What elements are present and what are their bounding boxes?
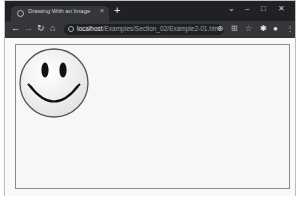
url-text[interactable]: localhost/Examples/Section_02/Example2-0… [77, 25, 222, 32]
new-tab-button[interactable]: + [114, 4, 120, 16]
minimize-button[interactable]: – [245, 4, 249, 13]
back-button[interactable]: ← [11, 23, 20, 33]
browser-window: Drawing With an Image × + ⌄ – □ ✕ ← → ↻ … [4, 0, 296, 196]
address-bar[interactable]: localhost/Examples/Section_02/Example2-0… [64, 24, 224, 35]
toolbar: ← → ↻ ⌂ localhost/Examples/Section_02/Ex… [5, 21, 295, 38]
forward-button[interactable]: → [24, 23, 33, 33]
bookmark-star-icon[interactable]: ☆ [245, 24, 252, 33]
smiley-face-image [18, 47, 91, 120]
extensions-icon[interactable]: ✱ [260, 24, 267, 33]
menu-icon[interactable]: ⋮ [286, 24, 294, 33]
close-tab-icon[interactable]: × [100, 7, 104, 14]
info-icon[interactable] [68, 26, 74, 32]
title-bar: Drawing With an Image × + ⌄ – □ ✕ [5, 1, 295, 21]
maximize-button[interactable]: □ [261, 4, 266, 13]
close-window-button[interactable]: ✕ [278, 4, 285, 13]
install-icon[interactable]: ⊞ [231, 24, 238, 33]
zoom-icon[interactable]: ⊕ [217, 24, 224, 33]
home-button[interactable]: ⌂ [50, 23, 55, 33]
tab-title: Drawing With an Image [28, 8, 90, 14]
url-host: localhost [77, 25, 103, 32]
reload-button[interactable]: ↻ [37, 23, 45, 33]
drawing-canvas[interactable] [15, 44, 290, 189]
tab-search-icon[interactable]: ⌄ [228, 4, 235, 13]
browser-tab[interactable]: Drawing With an Image × [11, 6, 109, 21]
url-path: /Examples/Section_02/Example2-01.html [103, 25, 222, 32]
profile-avatar-icon[interactable]: ● [273, 24, 278, 33]
page-icon [17, 10, 24, 17]
page-content [5, 38, 295, 196]
